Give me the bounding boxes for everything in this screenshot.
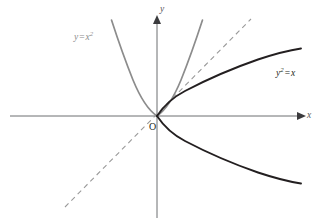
annotation-parabola-equals: = bbox=[78, 32, 85, 42]
plot-canvas bbox=[0, 0, 319, 220]
origin-label: O bbox=[149, 122, 156, 132]
x-axis-arrowhead bbox=[297, 112, 306, 120]
y-axis-label: y bbox=[160, 5, 164, 15]
annotation-parabola-exponent: 2 bbox=[90, 30, 93, 37]
annotation-sideways-parabola-label: y2=x bbox=[276, 67, 295, 79]
x-axis-label: x bbox=[307, 111, 311, 121]
annotation-sideways-equals: = bbox=[284, 68, 291, 78]
annotation-sideways-variable: x bbox=[291, 68, 295, 78]
sideways-parabola-lower-branch bbox=[157, 116, 301, 184]
graph-figure: y=x2 y2=x O x y bbox=[0, 0, 319, 220]
annotation-parabola-label: y=x2 bbox=[74, 31, 93, 43]
sideways-parabola-upper-branch bbox=[157, 49, 301, 117]
y-axis-arrowhead bbox=[153, 15, 161, 24]
